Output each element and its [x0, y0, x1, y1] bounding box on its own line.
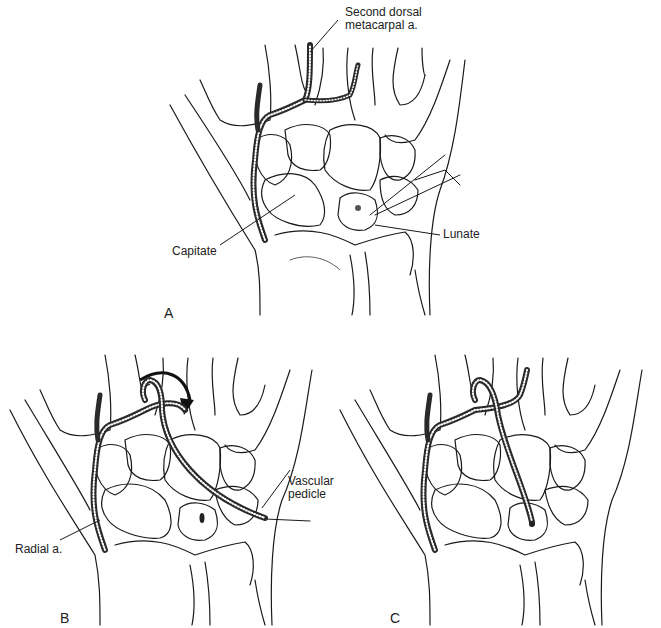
label-capitate: Capitate — [172, 245, 217, 258]
wrist-illustration-a — [160, 20, 480, 320]
label-radial-artery: Radial a. — [15, 543, 62, 556]
anatomical-figure: Second dorsal metacarpal a. Capitate Lun… — [0, 0, 661, 628]
panel-letter-b: B — [60, 610, 69, 626]
lunate-drill-hole — [355, 205, 361, 211]
panel-letter-a: A — [164, 305, 173, 321]
label-lunate: Lunate — [443, 228, 480, 241]
lunate-hole — [200, 513, 205, 523]
label-vascular-pedicle: Vascular pedicle — [288, 475, 334, 501]
panel-c: C — [330, 340, 661, 628]
wrist-illustration-c — [330, 340, 661, 628]
pedicle-insertion — [529, 521, 535, 527]
wrist-illustration-b — [0, 340, 330, 628]
panel-a: Second dorsal metacarpal a. Capitate Lun… — [160, 20, 480, 320]
panel-b: Vascular pedicle Radial a. B — [0, 340, 330, 628]
panel-letter-c: C — [390, 610, 400, 626]
label-second-dorsal-metacarpal-artery: Second dorsal metacarpal a. — [345, 6, 422, 32]
